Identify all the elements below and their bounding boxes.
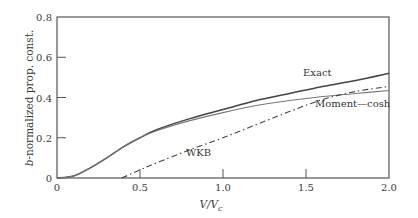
annotation-moment-cosh: Moment—cosh — [315, 98, 391, 109]
y-axis: 00.20.40.60.8 — [36, 12, 66, 184]
annotation-exact: Exact — [303, 67, 332, 78]
x-tick-label: 0.5 — [132, 182, 148, 193]
x-tick-label: 0 — [54, 182, 60, 193]
y-tick-label: 0.6 — [36, 52, 52, 63]
annotation-wkb: WKB — [186, 147, 211, 158]
chart: 00.20.40.60.8 00.51.01.52.0 Exact Moment… — [0, 0, 418, 218]
y-axis-title: b-normalized prop. const. — [23, 30, 35, 167]
series-exact-line — [57, 73, 389, 178]
x-tick-label: 2.0 — [381, 182, 397, 193]
series-group — [57, 73, 389, 178]
y-tick-label: 0.8 — [36, 12, 52, 23]
x-axis: 00.51.01.52.0 — [54, 169, 397, 193]
y-tick-label: 0 — [46, 173, 52, 184]
y-tick-label: 0.4 — [36, 93, 52, 104]
x-tick-label: 1.5 — [298, 182, 314, 193]
y-tick-label: 0.2 — [36, 133, 52, 144]
x-axis-title: V/Vc — [199, 198, 223, 213]
x-tick-label: 1.0 — [215, 182, 231, 193]
